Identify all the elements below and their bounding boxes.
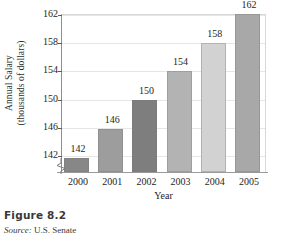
source-word: Source: (4, 225, 32, 235)
bar[interactable] (64, 158, 89, 172)
bar-value-label: 158 (198, 29, 232, 39)
x-tick-label: 2004 (198, 176, 232, 187)
x-tick-label: 2001 (95, 176, 129, 187)
bar-series: 142146150154158162 (61, 14, 266, 172)
x-axis-tick-labels: 200020012002200320042005 (61, 176, 266, 190)
y-axis-title-line2: (thousands of dollars) (16, 8, 28, 158)
x-axis-title: Year (61, 190, 266, 201)
bar-chart: Annual Salary (thousands of dollars) 162… (0, 0, 282, 200)
y-tick-label: 162 (32, 9, 58, 19)
y-tick-label: 154 (32, 65, 58, 75)
bar-slot: 158 (198, 14, 232, 172)
x-tick-label: 2002 (129, 176, 163, 187)
x-tick-label: 2000 (61, 176, 95, 187)
figure-source: Source: U.S. Senate (4, 225, 278, 235)
bar-slot: 146 (95, 14, 129, 172)
bar-value-label: 146 (95, 115, 129, 125)
y-tick-label: 150 (32, 94, 58, 104)
bar[interactable] (235, 14, 260, 172)
bar[interactable] (201, 43, 226, 172)
axis-break-icon (55, 158, 67, 174)
bar-slot: 154 (164, 14, 198, 172)
bar[interactable] (132, 100, 157, 172)
bar-value-label: 142 (61, 144, 95, 154)
y-tick-label: 158 (32, 37, 58, 47)
bar-slot: 142 (61, 14, 95, 172)
source-text: U.S. Senate (34, 225, 76, 235)
bar-value-label: 162 (232, 0, 266, 10)
x-tick-label: 2003 (164, 176, 198, 187)
y-tick-label: 146 (32, 122, 58, 132)
bar-value-label: 150 (129, 86, 163, 96)
y-axis-title-line1: Annual Salary (4, 8, 16, 158)
x-tick-label: 2005 (232, 176, 266, 187)
x-axis-line (57, 172, 268, 173)
y-axis-tick-labels: 162 158 154 150 146 142 (28, 0, 58, 175)
bar-slot: 150 (129, 14, 163, 172)
bar-slot: 162 (232, 14, 266, 172)
bar[interactable] (98, 129, 123, 172)
figure-container: Annual Salary (thousands of dollars) 162… (0, 0, 282, 243)
bar-value-label: 154 (164, 57, 198, 67)
figure-caption: Figure 8.2 Source: U.S. Senate (4, 209, 278, 235)
bar[interactable] (167, 71, 192, 172)
figure-title: Figure 8.2 (4, 209, 278, 221)
